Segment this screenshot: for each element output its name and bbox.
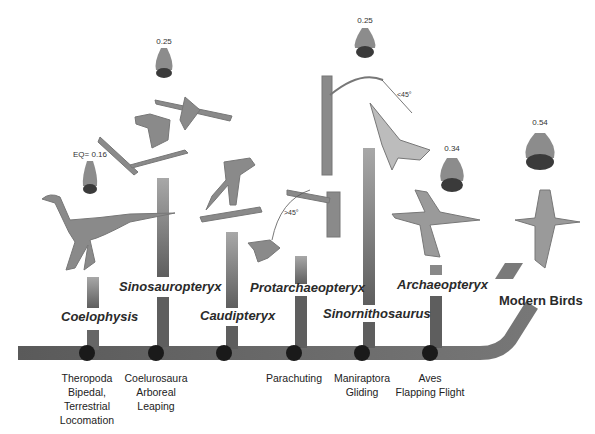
brain-icon-archaeopteryx: [440, 158, 464, 192]
angle-parachute-label: >45°: [284, 209, 299, 216]
illustrations: [42, 76, 580, 270]
node-parachuting: [286, 345, 302, 361]
node-label-aves: Aves Flapping Flight: [396, 371, 465, 399]
brain-icon-coelophysis: [83, 161, 97, 194]
taxon-protarchaeopteryx: Protarchaeopteryx: [250, 280, 365, 295]
sinornithosaurus-illustration: [322, 76, 430, 175]
node-label-maniraptora: Maniraptora Gliding: [334, 371, 390, 399]
brain-icon-sinornithosaurus: [355, 28, 376, 58]
eq-archaeopteryx: 0.34: [444, 144, 460, 153]
archaeopteryx-bar-upper: [430, 265, 442, 275]
phylogeny-diagram: EQ= 0.16 0.25 0.25 0.34 0.54 >45° <45° C…: [0, 0, 595, 434]
taxon-archaeopteryx: Archaeopteryx: [397, 277, 488, 292]
taxon-sinornithosaurus: Sinornithosaurus: [323, 306, 431, 321]
diagram-graphics: [0, 0, 595, 434]
archaeopteryx-bar-lower: [430, 296, 442, 348]
coelophysis-bar-upper: [87, 277, 99, 308]
brain-icon-sinosauropteryx: [156, 48, 173, 78]
protarchaeopteryx-bar-lower: [295, 296, 307, 348]
brain-icons: [83, 28, 555, 194]
caudipteryx-bar-lower: [226, 326, 238, 349]
eq-modern-birds: 0.54: [532, 118, 548, 127]
archaeopteryx-illustration: [392, 190, 480, 257]
sinosauropteryx-bar-upper: [157, 178, 169, 277]
modern-bird-illustration: [515, 190, 580, 268]
node-aves: [422, 345, 438, 361]
taxon-coelophysis: Coelophysis: [61, 309, 138, 324]
node-coelurosaura: [148, 345, 164, 361]
sinosauropteryx-bar-lower: [157, 297, 169, 347]
node-maniraptora: [354, 345, 370, 361]
taxon-caudipteryx: Caudipteryx: [200, 308, 275, 323]
coelophysis-illustration: [42, 195, 175, 270]
eq-coelophysis: EQ= 0.16: [73, 150, 107, 159]
sinosauropteryx-illustration: [98, 97, 232, 175]
node-unnamed: [216, 345, 232, 361]
taxon-modern-birds: Modern Birds: [499, 293, 583, 308]
angle-glide-label: <45°: [397, 91, 412, 98]
eq-sinosauropteryx: 0.25: [156, 37, 172, 46]
node-theropoda: [79, 345, 95, 361]
eq-sinornithosaurus: 0.25: [357, 16, 373, 25]
modern-birds-bar: [495, 263, 523, 279]
protarchaeopteryx-illustration: [248, 190, 340, 262]
brain-icon-modern-birds: [525, 133, 554, 170]
node-label-coelurosaura: Coelurosaura Arboreal Leaping: [124, 371, 187, 413]
caudipteryx-bar-upper: [226, 232, 238, 308]
node-label-parachuting: Parachuting: [266, 371, 322, 385]
sinornithosaurus-bar-lower: [363, 322, 375, 348]
taxon-sinosauropteryx: Sinosauropteryx: [119, 279, 222, 294]
caudipteryx-illustration: [200, 158, 262, 222]
node-label-theropoda: Theropoda Bipedal, Terrestrial Locomatio…: [60, 371, 114, 427]
